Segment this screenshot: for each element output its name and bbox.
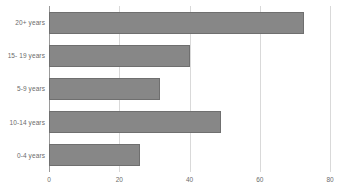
bar-row bbox=[49, 6, 304, 39]
y-axis-tick-label: 20+ years bbox=[15, 6, 45, 39]
bar-series bbox=[49, 6, 330, 172]
gridline-80 bbox=[330, 6, 331, 172]
x-axis-tick-label: 80 bbox=[326, 176, 333, 183]
bar-5-9-years[interactable] bbox=[49, 78, 160, 100]
plot-area bbox=[49, 6, 330, 172]
x-axis-tick-label: 0 bbox=[47, 176, 51, 183]
bar-row bbox=[49, 106, 221, 139]
bar-row bbox=[49, 39, 190, 72]
bar-chart: 20+ years 15- 19 years 5-9 years 10-14 y… bbox=[0, 0, 341, 193]
x-axis-tick-label: 40 bbox=[186, 176, 193, 183]
y-axis-labels: 20+ years 15- 19 years 5-9 years 10-14 y… bbox=[0, 6, 45, 172]
bar-20-plus-years[interactable] bbox=[49, 12, 304, 34]
bar-row bbox=[49, 139, 140, 172]
bar-0-4-years[interactable] bbox=[49, 144, 140, 166]
y-axis-tick-label: 15- 19 years bbox=[8, 39, 45, 72]
y-axis-tick-label: 10-14 years bbox=[10, 106, 45, 139]
bar-row bbox=[49, 72, 160, 105]
y-axis-tick-label: 0-4 years bbox=[17, 139, 45, 172]
bar-10-14-years[interactable] bbox=[49, 111, 221, 133]
x-axis-tick-label: 20 bbox=[116, 176, 123, 183]
x-axis-labels: 0 20 40 60 80 bbox=[49, 176, 330, 188]
bar-15-19-years[interactable] bbox=[49, 45, 190, 67]
y-axis-tick-label: 5-9 years bbox=[17, 72, 45, 105]
x-axis-tick-label: 60 bbox=[256, 176, 263, 183]
